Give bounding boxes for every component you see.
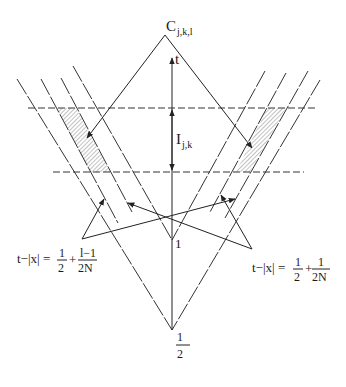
point-half-label: 1 2 [176,330,190,361]
outer-cone-left [17,79,172,330]
apex-label: C [166,18,176,34]
svg-text:2N: 2N [312,270,327,284]
svg-text:t−|x| =: t−|x| = [17,251,50,266]
right-equation-label: t−|x| = 1 2 + 1 2N [252,255,330,284]
svg-text:2: 2 [177,347,183,361]
left-level-line-inner [61,78,132,212]
point-one-label: 1 [175,236,182,251]
interval-label: I [176,131,181,147]
apex-subscript: j,k,l [176,26,193,37]
interval-subscript: j,k [181,139,192,150]
left-level-line-outer [41,79,118,223]
svg-text:2N: 2N [78,261,93,275]
right-level-line-outer [225,71,308,218]
left-label-pointer-a [82,199,104,239]
left-equation-label: t−|x| = 1 2 + l−1 2N [17,246,97,275]
left-label-pointer-b [82,199,235,239]
apex-arrow-left [87,35,165,138]
svg-text:t−|x| =: t−|x| = [252,260,285,275]
svg-text:2: 2 [58,261,64,275]
svg-text:+: + [69,252,76,267]
svg-text:2: 2 [294,270,300,284]
right-hatched-region [236,108,286,172]
svg-text:1: 1 [177,330,183,344]
svg-text:1: 1 [318,255,324,269]
light-cone-diagram: C j,k,l t I j,k 1 1 2 t−|x| = 1 2 + l−1 … [0,0,346,387]
svg-text:1: 1 [59,246,65,260]
outer-cone-right [172,80,320,330]
svg-text:1: 1 [295,255,301,269]
svg-text:l−1: l−1 [80,246,96,260]
